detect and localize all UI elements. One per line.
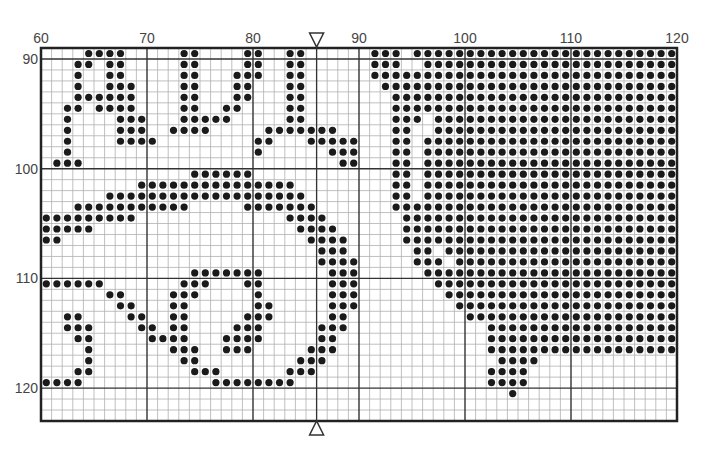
grid-dot (552, 280, 559, 287)
grid-dot (297, 357, 304, 364)
grid-dot (668, 258, 675, 265)
grid-dot (636, 116, 643, 123)
grid-dot (668, 302, 675, 309)
grid-dot (456, 291, 463, 298)
grid-dot (562, 83, 569, 90)
grid-dot (234, 379, 241, 386)
grid-dot (403, 105, 410, 112)
grid-dot (446, 149, 453, 156)
grid-dot (583, 182, 590, 189)
grid-dot (435, 116, 442, 123)
grid-dot (128, 116, 135, 123)
grid-dot (202, 182, 209, 189)
grid-dot (244, 346, 251, 353)
grid-dot (626, 94, 633, 101)
grid-dot (668, 105, 675, 112)
grid-dot (456, 182, 463, 189)
grid-dot (446, 105, 453, 112)
grid-dot (615, 203, 622, 210)
grid-dot (668, 50, 675, 57)
grid-dot (615, 280, 622, 287)
grid-dot (658, 203, 665, 210)
grid-dot (647, 313, 654, 320)
grid-dot (615, 313, 622, 320)
grid-dot (244, 182, 251, 189)
grid-dot (552, 302, 559, 309)
grid-dot (43, 280, 50, 287)
grid-dot (509, 357, 516, 364)
grid-dot (53, 214, 60, 221)
grid-dot (488, 291, 495, 298)
grid-dot (499, 269, 506, 276)
grid-dot (234, 335, 241, 342)
grid-dot (594, 83, 601, 90)
grid-dot (488, 72, 495, 79)
grid-dot (573, 83, 580, 90)
grid-dot (446, 61, 453, 68)
grid-dot (520, 368, 527, 375)
grid-dot (499, 138, 506, 145)
grid-dot (403, 127, 410, 134)
grid-dot (615, 182, 622, 189)
grid-dot (128, 302, 135, 309)
grid-dot (202, 171, 209, 178)
grid-dot (85, 61, 92, 68)
grid-dot (350, 291, 357, 298)
grid-dot (318, 127, 325, 134)
grid-dot (499, 324, 506, 331)
grid-dot (170, 346, 177, 353)
grid-dot (467, 269, 474, 276)
grid-dot (520, 357, 527, 364)
grid-dot (647, 50, 654, 57)
grid-dot (605, 116, 612, 123)
grid-dot (414, 225, 421, 232)
grid-dot (403, 214, 410, 221)
grid-dot (329, 291, 336, 298)
grid-dot (530, 247, 537, 254)
grid-dot (456, 160, 463, 167)
grid-dot (403, 203, 410, 210)
grid-dot (191, 72, 198, 79)
grid-dot (212, 171, 219, 178)
grid-dot (583, 269, 590, 276)
grid-dot (594, 127, 601, 134)
grid-dot (329, 335, 336, 342)
grid-dot (552, 203, 559, 210)
grid-dot (467, 94, 474, 101)
grid-dot (117, 214, 124, 221)
grid-dot (318, 335, 325, 342)
grid-dot (96, 214, 103, 221)
grid-dot (446, 182, 453, 189)
grid-dot (138, 203, 145, 210)
grid-dot (658, 236, 665, 243)
grid-dot (541, 291, 548, 298)
grid-dot (488, 335, 495, 342)
grid-dot (85, 335, 92, 342)
grid-dot (96, 280, 103, 287)
grid-dot (85, 280, 92, 287)
grid-dot (605, 313, 612, 320)
grid-dot (403, 171, 410, 178)
grid-dot (202, 193, 209, 200)
grid-dot (626, 324, 633, 331)
x-axis-label: 60 (33, 30, 49, 46)
grid-dot (605, 171, 612, 178)
grid-dot (636, 335, 643, 342)
grid-dot (149, 182, 156, 189)
grid-dot (403, 193, 410, 200)
grid-dot (297, 116, 304, 123)
x-axis-label: 80 (245, 30, 261, 46)
grid-dot (276, 193, 283, 200)
grid-dot (520, 138, 527, 145)
grid-dot (520, 72, 527, 79)
grid-dot (393, 193, 400, 200)
grid-dot (583, 160, 590, 167)
grid-dot (626, 247, 633, 254)
x-axis-label: 90 (351, 30, 367, 46)
grid-dot (541, 214, 548, 221)
grid-dot (583, 72, 590, 79)
grid-dot (223, 346, 230, 353)
grid-dot (255, 138, 262, 145)
grid-dot (520, 258, 527, 265)
grid-dot (626, 313, 633, 320)
